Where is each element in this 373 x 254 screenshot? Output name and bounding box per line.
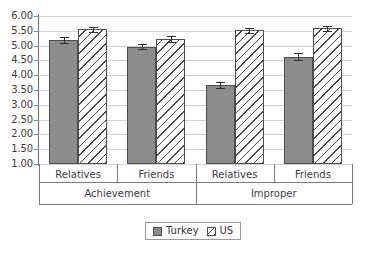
error-bar-cap-lower bbox=[89, 32, 98, 33]
legend-item-us: US bbox=[207, 226, 234, 236]
group-label: Achievement bbox=[39, 188, 196, 199]
y-axis-tick-label: 3.00 bbox=[0, 100, 33, 110]
y-axis-tick-mark bbox=[34, 90, 39, 91]
legend-item-turkey: Turkey bbox=[153, 226, 199, 236]
error-bar-cap-upper bbox=[294, 53, 303, 54]
category-label: Relatives bbox=[39, 169, 117, 180]
legend-swatch-turkey-icon bbox=[153, 227, 162, 236]
y-axis-tick-label: 5.00 bbox=[0, 41, 33, 51]
error-bar-cap-lower bbox=[60, 43, 69, 44]
category-label: Friends bbox=[117, 169, 195, 180]
legend-label-us: US bbox=[220, 226, 234, 236]
bar-us-3 bbox=[313, 28, 342, 164]
y-axis-tick-label: 2.50 bbox=[0, 115, 33, 125]
y-axis-tick-label: 3.50 bbox=[0, 85, 33, 95]
bar-turkey-1 bbox=[127, 47, 156, 165]
error-bar-stem bbox=[298, 53, 299, 60]
category-label: Relatives bbox=[196, 169, 274, 180]
error-bar-cap-lower bbox=[294, 60, 303, 61]
error-bar-cap-lower bbox=[216, 88, 225, 89]
y-axis-tick-mark bbox=[34, 46, 39, 47]
error-bar-cap-upper bbox=[89, 27, 98, 28]
bar-turkey-2 bbox=[206, 85, 235, 164]
y-axis-tick-label: 6.00 bbox=[0, 11, 33, 21]
bar-us-1 bbox=[156, 39, 185, 164]
error-bar-cap-upper bbox=[138, 44, 147, 45]
bar-us-2 bbox=[235, 30, 264, 164]
error-bar-cap-upper bbox=[167, 36, 176, 37]
chart-legend: Turkey US bbox=[145, 222, 241, 240]
y-axis-tick-mark bbox=[34, 60, 39, 61]
error-bar-cap-upper bbox=[323, 26, 332, 27]
y-axis-tick-mark bbox=[34, 16, 39, 17]
legend-swatch-us-icon bbox=[207, 227, 216, 236]
error-bar-cap-lower bbox=[245, 33, 254, 34]
bar-turkey-3 bbox=[284, 57, 313, 164]
bar-turkey-0 bbox=[49, 40, 78, 164]
category-row-divider bbox=[39, 182, 352, 183]
error-bar-cap-upper bbox=[245, 28, 254, 29]
y-axis-tick-label: 2.00 bbox=[0, 129, 33, 139]
y-axis-tick-mark bbox=[34, 134, 39, 135]
y-axis-tick-label: 5.50 bbox=[0, 26, 33, 36]
bar-us-0 bbox=[78, 29, 107, 164]
category-separator bbox=[117, 164, 118, 182]
y-axis-tick-label: 4.50 bbox=[0, 55, 33, 65]
bar-chart: 6.005.505.004.504.003.503.002.502.001.50… bbox=[0, 0, 373, 254]
y-axis-tick-mark bbox=[34, 75, 39, 76]
y-axis-tick-mark bbox=[34, 149, 39, 150]
y-axis-tick-mark bbox=[34, 120, 39, 121]
group-label: Improper bbox=[196, 188, 353, 199]
y-axis-tick-mark bbox=[34, 105, 39, 106]
category-group-separator bbox=[352, 164, 353, 204]
category-separator bbox=[274, 164, 275, 182]
error-bar-cap-upper bbox=[216, 82, 225, 83]
y-axis-tick-label: 1.50 bbox=[0, 144, 33, 154]
y-axis-tick-label: 4.00 bbox=[0, 70, 33, 80]
legend-label-turkey: Turkey bbox=[166, 226, 199, 236]
group-row-divider bbox=[39, 204, 352, 205]
error-bar-cap-lower bbox=[138, 49, 147, 50]
error-bar-cap-lower bbox=[167, 42, 176, 43]
error-bar-cap-lower bbox=[323, 31, 332, 32]
bars-layer bbox=[39, 16, 352, 164]
error-bar-cap-upper bbox=[60, 37, 69, 38]
y-axis-tick-mark bbox=[34, 31, 39, 32]
category-label: Friends bbox=[274, 169, 352, 180]
category-axis: RelativesFriendsRelativesFriendsAchievem… bbox=[0, 164, 373, 208]
